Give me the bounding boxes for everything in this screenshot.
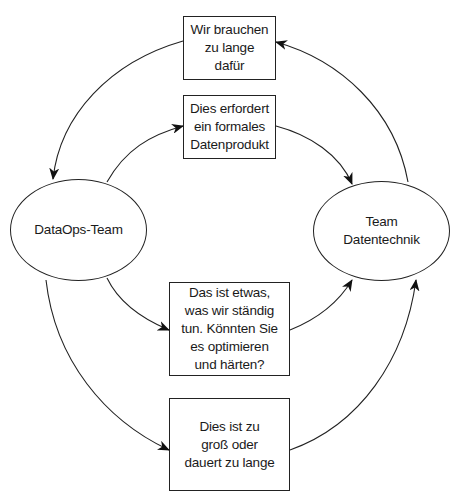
edge-too-big-to-datatech <box>290 280 416 450</box>
edge-optimize-to-datatech <box>290 280 352 330</box>
node-label: Dies erfordert ein formales Datenprodukt <box>190 100 269 154</box>
diagram-canvas: Wir brauchen zu lange dafür Dies erforde… <box>0 0 463 502</box>
node-label: DataOps-Team <box>34 221 122 239</box>
node-team-datentechnik: Team Datentechnik <box>313 181 450 281</box>
edge-dataops-to-formal <box>107 126 183 182</box>
node-dataops-team: DataOps-Team <box>10 179 147 281</box>
node-label: Dies ist zu groß oder dauert zu lange <box>184 418 274 472</box>
node-label: Das ist etwas, was wir ständig tun. Könn… <box>181 284 278 374</box>
node-label: Wir brauchen zu lange dafür <box>191 21 269 75</box>
edge-formal-to-datatech <box>276 126 352 184</box>
node-box-too-long: Wir brauchen zu lange dafür <box>183 16 276 80</box>
node-label: Team Datentechnik <box>343 213 419 249</box>
edge-too-long-to-dataops <box>53 41 183 179</box>
node-box-formal-data-product: Dies erfordert ein formales Datenprodukt <box>183 95 276 159</box>
edge-dataops-to-optimize <box>107 278 169 330</box>
edge-datatech-to-too-long <box>276 42 408 182</box>
node-box-too-big: Dies ist zu groß oder dauert zu lange <box>169 398 290 491</box>
node-box-optimize-harden: Das ist etwas, was wir ständig tun. Könn… <box>169 282 290 376</box>
edge-dataops-to-too-big <box>46 280 169 450</box>
